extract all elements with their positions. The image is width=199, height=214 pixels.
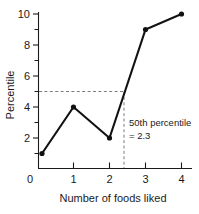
series-polyline (42, 14, 182, 154)
median-callout: 50th percentile = 2.3 (129, 117, 191, 141)
y-axis-major-ticks (33, 14, 39, 138)
y-axis-title: Percentile (4, 71, 16, 120)
y-tick-label-2: 2 (24, 132, 30, 144)
x-tick-label-1: 1 (70, 173, 76, 185)
data-point-0 (39, 151, 44, 156)
data-point-2 (107, 135, 112, 140)
x-axis-tick-labels: 0 1 2 3 4 (27, 173, 185, 185)
x-axis-major-ticks (74, 163, 182, 169)
y-axis-tick-labels: 10 8 6 4 2 (18, 8, 30, 144)
x-tick-label-4: 4 (178, 173, 184, 185)
data-point-1 (71, 104, 76, 109)
line-chart: 10 8 6 4 2 0 1 2 3 4 Percentile Number o… (0, 0, 199, 214)
data-series (39, 11, 184, 156)
y-tick-label-10: 10 (18, 8, 30, 20)
y-tick-label-8: 8 (24, 39, 30, 51)
x-tick-label-0: 0 (27, 173, 33, 185)
x-tick-label-3: 3 (142, 173, 148, 185)
data-point-4 (179, 11, 184, 16)
data-point-3 (143, 27, 148, 32)
axis-spines (38, 12, 192, 169)
y-tick-label-6: 6 (24, 70, 30, 82)
median-callout-line2: = 2.3 (129, 130, 150, 141)
x-axis-title: Number of foods liked (60, 192, 167, 204)
x-tick-label-2: 2 (106, 173, 112, 185)
y-tick-label-4: 4 (24, 101, 30, 113)
chart-figure: 10 8 6 4 2 0 1 2 3 4 Percentile Number o… (0, 0, 199, 214)
median-callout-line1: 50th percentile (129, 117, 191, 128)
y-axis-minor-ticks (35, 30, 39, 154)
